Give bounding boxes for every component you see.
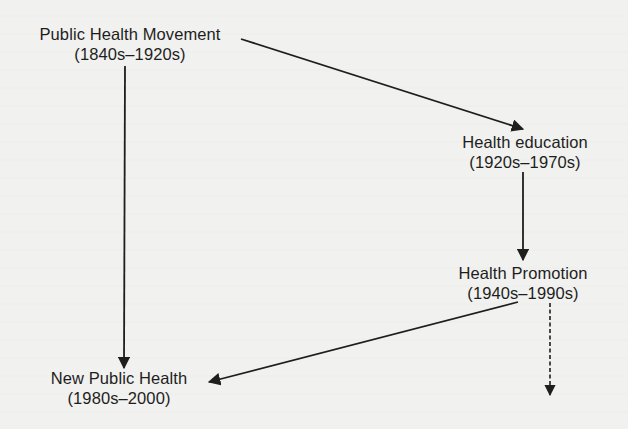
node-period: (1920s–1970s) bbox=[448, 152, 602, 172]
node-title: Health Promotion bbox=[444, 263, 602, 283]
node-new-public-health: New Public Health (1980s–2000) bbox=[38, 368, 200, 408]
arrow-phm-to-health-education bbox=[241, 39, 523, 129]
diagram-connectors bbox=[0, 0, 628, 429]
arrow-health-promotion-to-new-public-health bbox=[209, 302, 518, 382]
node-title: Public Health Movement bbox=[20, 24, 240, 44]
node-period: (1840s–1920s) bbox=[20, 44, 240, 64]
node-period: (1940s–1990s) bbox=[444, 283, 602, 303]
node-title: Health education bbox=[448, 132, 602, 152]
node-health-education: Health education (1920s–1970s) bbox=[448, 132, 602, 172]
node-title: New Public Health bbox=[38, 368, 200, 388]
node-health-promotion: Health Promotion (1940s–1990s) bbox=[444, 263, 602, 303]
node-public-health-movement: Public Health Movement (1840s–1920s) bbox=[20, 24, 240, 64]
node-period: (1980s–2000) bbox=[38, 388, 200, 408]
arrow-phm-to-new-public-health bbox=[124, 66, 125, 368]
